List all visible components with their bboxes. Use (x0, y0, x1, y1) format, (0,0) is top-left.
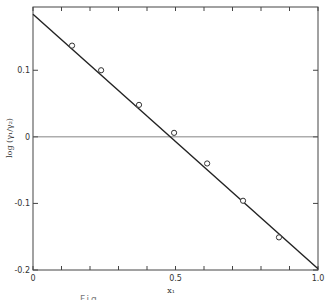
x-tick-label: 0 (30, 274, 35, 283)
y-axis-label: log (γ₁/γ₂) (5, 118, 14, 158)
x-tick-label: 1.0 (312, 274, 325, 283)
y-tick-label: 0.1 (17, 66, 30, 75)
y-tick-label: 0 (25, 133, 30, 142)
data-point-marker (276, 235, 281, 240)
fitted-line (33, 14, 318, 268)
y-tick-label: -0.2 (14, 266, 30, 275)
data-point-marker (136, 102, 141, 107)
data-point-marker (240, 198, 245, 203)
data-point-marker (69, 43, 74, 48)
x-tick-label: 0.5 (169, 274, 182, 283)
chart: 00.51.0 0.10-0.1-0.2 x₁ log (γ₁/γ₂) (0, 0, 326, 300)
figure-caption: Fig. ... (80, 294, 310, 300)
data-point-marker (205, 161, 210, 166)
y-tick-label: -0.1 (14, 199, 30, 208)
data-point-marker (99, 68, 104, 73)
data-point-marker (171, 130, 176, 135)
x-axis-ticks: 00.51.0 (30, 7, 324, 283)
y-axis-ticks: 0.10-0.1-0.2 (14, 66, 318, 275)
